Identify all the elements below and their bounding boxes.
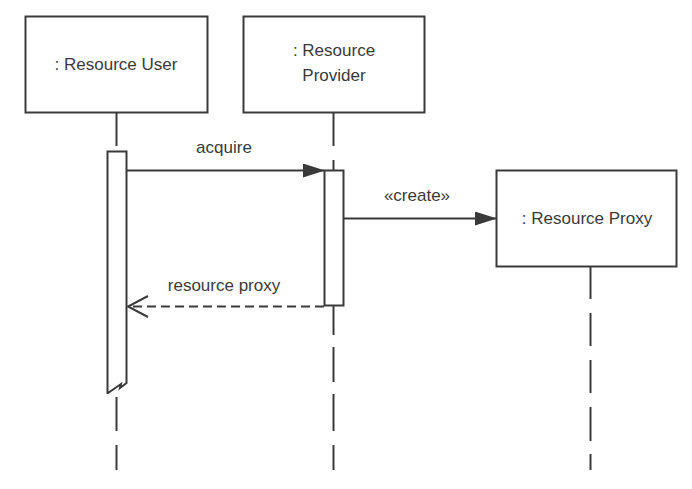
message-create[interactable]: «create» bbox=[344, 186, 496, 219]
participant-box bbox=[244, 17, 425, 113]
activation-bar-resource-user bbox=[108, 152, 127, 394]
participant-resource-user[interactable]: : Resource User bbox=[26, 17, 208, 113]
participant-label: : Resource User bbox=[55, 55, 178, 74]
activation-bar-resource-provider bbox=[325, 171, 344, 306]
message-label: acquire bbox=[196, 138, 252, 157]
message-resource-proxy-return[interactable]: resource proxy bbox=[128, 276, 324, 317]
sequence-diagram: : Resource User : Resource Provider : Re… bbox=[0, 0, 692, 489]
participant-resource-provider[interactable]: : Resource Provider bbox=[244, 17, 425, 113]
message-acquire[interactable]: acquire bbox=[127, 138, 324, 171]
message-label: «create» bbox=[384, 186, 450, 205]
participant-label-line-2: Provider bbox=[302, 66, 366, 85]
participant-resource-proxy[interactable]: : Resource Proxy bbox=[497, 171, 677, 267]
participant-label-line-1: : Resource bbox=[293, 41, 375, 60]
message-label: resource proxy bbox=[168, 276, 281, 295]
participant-label: : Resource Proxy bbox=[522, 209, 653, 228]
